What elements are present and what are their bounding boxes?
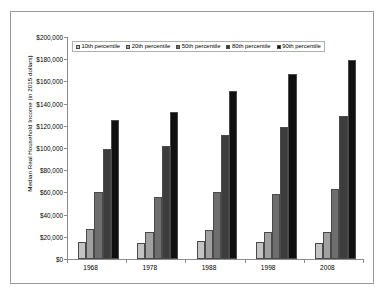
bar[interactable] xyxy=(197,241,205,259)
bar[interactable] xyxy=(272,194,280,259)
chart-legend: 10th percentile20th percentile50th perce… xyxy=(72,41,325,52)
plot-area xyxy=(67,37,363,259)
x-axis-tick-label: 1988 xyxy=(202,264,217,271)
x-axis-tick-label: 2008 xyxy=(320,264,335,271)
y-axis-tick-label: $40,000 xyxy=(40,211,63,218)
x-axis-tick-mark xyxy=(363,260,364,263)
bar-group xyxy=(315,37,356,259)
x-axis-tick-mark xyxy=(185,260,186,263)
x-axis-line xyxy=(67,259,364,260)
legend-swatch-icon xyxy=(176,45,180,49)
x-axis-tick-label: 1968 xyxy=(83,264,98,271)
bar[interactable] xyxy=(323,232,331,259)
bar[interactable] xyxy=(229,91,237,259)
x-axis-tick-label: 1978 xyxy=(142,264,157,271)
bar-group xyxy=(256,37,297,259)
x-axis-tick-mark xyxy=(245,260,246,263)
legend-swatch-icon xyxy=(76,45,80,49)
bar[interactable] xyxy=(86,229,94,259)
bar[interactable] xyxy=(103,149,111,259)
y-axis-tick-label: $100,000 xyxy=(36,145,63,152)
bar-group xyxy=(78,37,119,259)
legend-item[interactable]: 80th percentile xyxy=(226,44,270,50)
bar[interactable] xyxy=(348,60,356,259)
bar[interactable] xyxy=(288,74,296,259)
legend-label: 50th percentile xyxy=(182,44,221,50)
bar-group-bars xyxy=(137,37,178,259)
bar-group-bars xyxy=(256,37,297,259)
bar-group-bars xyxy=(197,37,238,259)
legend-item[interactable]: 90th percentile xyxy=(277,44,321,50)
bar[interactable] xyxy=(137,243,145,259)
y-axis-tick-label: $140,000 xyxy=(36,100,63,107)
legend-swatch-icon xyxy=(277,45,281,49)
bar[interactable] xyxy=(78,242,86,259)
bar[interactable] xyxy=(256,242,264,259)
legend-label: 90th percentile xyxy=(282,44,321,50)
x-axis-tick-mark xyxy=(67,260,68,263)
bar[interactable] xyxy=(154,197,162,259)
x-axis-tick-label: 1998 xyxy=(261,264,276,271)
legend-item[interactable]: 20th percentile xyxy=(126,44,170,50)
bar[interactable] xyxy=(213,192,221,259)
bar[interactable] xyxy=(145,232,153,259)
bar[interactable] xyxy=(315,243,323,259)
bar[interactable] xyxy=(111,120,119,259)
bar[interactable] xyxy=(339,116,347,259)
bar[interactable] xyxy=(170,112,178,259)
bar[interactable] xyxy=(331,189,339,259)
bar[interactable] xyxy=(162,146,170,259)
legend-label: 80th percentile xyxy=(232,44,271,50)
chart-frame: Median Real Household Income (in 2015 do… xyxy=(10,11,374,284)
legend-item[interactable]: 10th percentile xyxy=(76,44,120,50)
bar-group-bars xyxy=(315,37,356,259)
y-axis-tick-label: $80,000 xyxy=(40,167,63,174)
x-axis-tick-mark xyxy=(304,260,305,263)
y-axis-tick-label: $180,000 xyxy=(36,56,63,63)
legend-swatch-icon xyxy=(126,45,130,49)
bar[interactable] xyxy=(264,232,272,259)
bar[interactable] xyxy=(205,230,213,259)
bar-group-bars xyxy=(78,37,119,259)
legend-item[interactable]: 50th percentile xyxy=(176,44,220,50)
y-axis-tick-label: $60,000 xyxy=(40,189,63,196)
bar[interactable] xyxy=(221,135,229,259)
legend-swatch-icon xyxy=(226,45,230,49)
y-axis-tick-label: $200,000 xyxy=(36,34,63,41)
y-axis-tick-label: $0 xyxy=(56,256,63,263)
x-axis-tick-mark xyxy=(126,260,127,263)
y-axis-tick-label: $20,000 xyxy=(40,233,63,240)
legend-label: 10th percentile xyxy=(82,44,121,50)
bar-group xyxy=(197,37,238,259)
bar[interactable] xyxy=(94,192,102,259)
y-axis-tick-label: $120,000 xyxy=(36,122,63,129)
legend-label: 20th percentile xyxy=(132,44,171,50)
y-axis-tick-labels: $200,000$180,000$160,000$140,000$120,000… xyxy=(11,12,63,285)
bar[interactable] xyxy=(280,127,288,259)
y-axis-tick-label: $160,000 xyxy=(36,78,63,85)
bar-group xyxy=(137,37,178,259)
